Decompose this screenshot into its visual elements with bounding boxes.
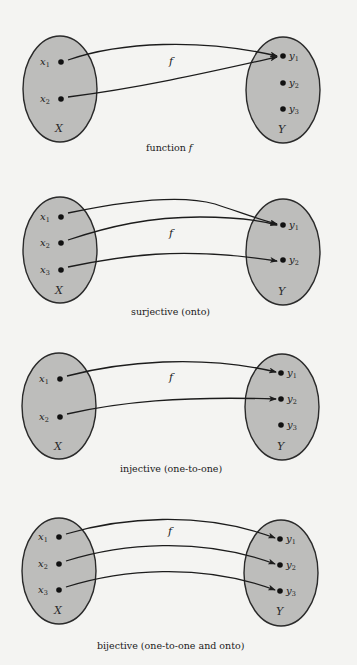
mapping-arrow-x2-y2 [66,546,275,564]
point-dot [58,214,64,220]
point-dot [280,80,286,86]
point-dot [278,370,284,376]
function-label: f [168,55,175,68]
caption-bijective: bijective (one-to-one and onto) [97,640,244,651]
set-x-label: X [54,122,64,135]
point-dot [280,222,286,228]
diagram-function: f x1 x2 y1 y2 y3 X Y [23,36,320,153]
point-dot [278,396,284,402]
point-dot [277,562,283,568]
point-dot [280,257,286,263]
diagram-injective: f x1 x2 y1 y2 y3 X Y in [22,353,319,474]
figure-canvas: f x1 x2 y1 y2 y3 X Y [0,0,357,665]
point-dot [277,588,283,594]
point-dot [56,587,62,593]
caption-function: function f [146,142,194,153]
point-dot [56,561,62,567]
point-dot [57,376,63,382]
diagram-bijective: f x1 x2 x3 y1 y2 y3 [22,518,318,651]
point-dot [280,106,286,112]
point-dot [278,422,284,428]
point-dot [57,414,63,420]
set-x-label: X [54,284,64,297]
set-x-label: X [53,604,63,617]
function-label: f [168,227,175,240]
point-dot [280,53,286,59]
mapping-arrow-x1-y1 [68,199,277,224]
function-label: f [168,371,175,384]
set-x-label: X [53,440,63,453]
point-dot [58,267,64,273]
caption-surjective: surjective (onto) [131,306,210,317]
caption-injective: injective (one-to-one) [120,463,222,474]
function-types-figure: f x1 x2 y1 y2 y3 X Y [0,0,357,665]
point-dot [58,96,64,102]
point-dot [58,59,64,65]
point-dot [56,534,62,540]
point-dot [277,536,283,542]
function-label: f [167,525,174,538]
point-dot [58,240,64,246]
diagram-surjective: f x1 x2 x3 y1 y2 X Y su [23,197,320,317]
